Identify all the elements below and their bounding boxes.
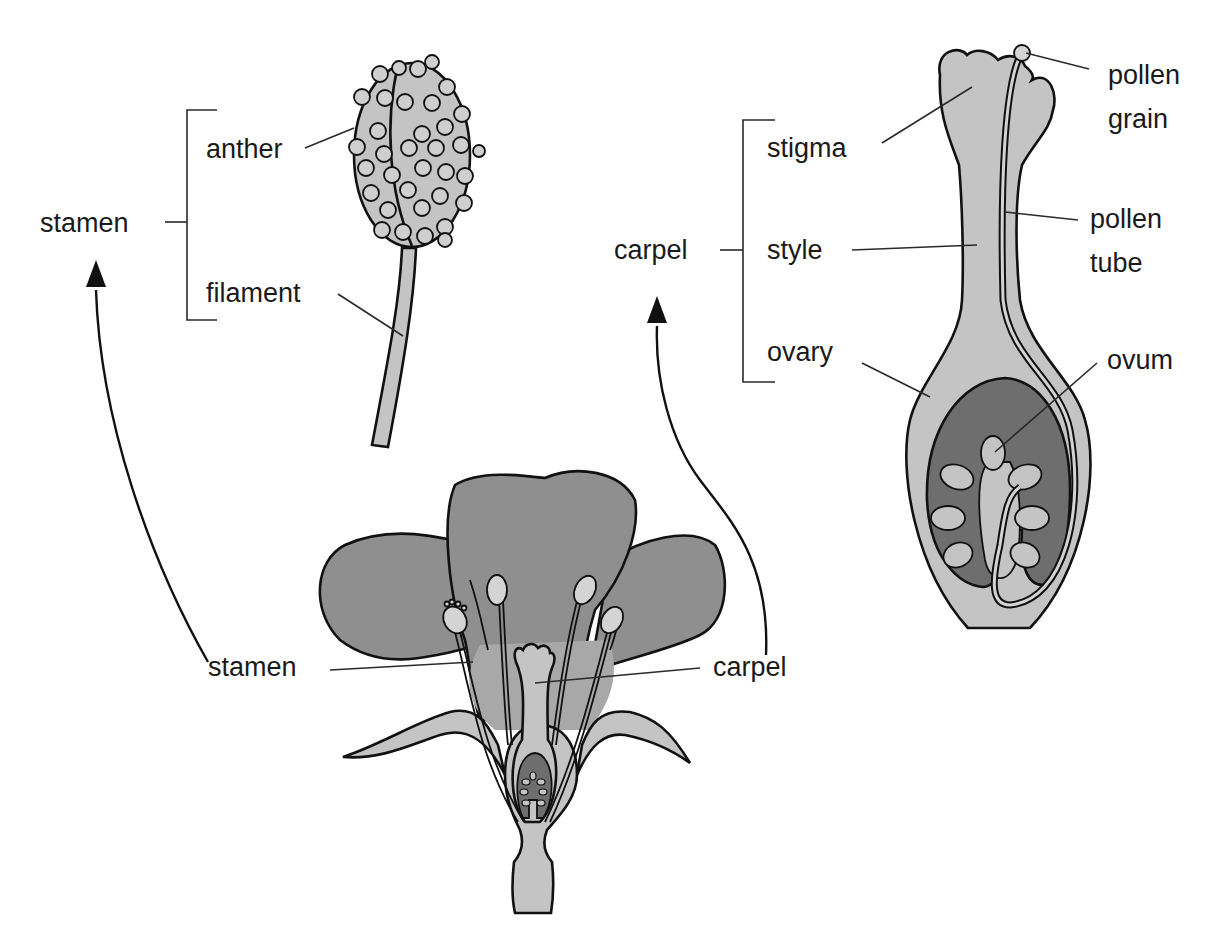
style-label: style <box>767 235 823 265</box>
pollen-tube-label-line1: pollen <box>1090 204 1162 234</box>
filament-label: filament <box>206 278 301 308</box>
anther-leader-line <box>305 128 354 148</box>
pollen-grain-label-line2: grain <box>1108 104 1168 134</box>
pollen-grain-label-line1: pollen <box>1108 60 1180 90</box>
stigma-label: stigma <box>767 133 848 163</box>
ovary-label: ovary <box>767 337 834 367</box>
whole-flower: stamen carpel <box>208 471 787 913</box>
filament-leader-line <box>338 294 403 336</box>
filament-shape <box>372 248 416 447</box>
pollen-grain-leader-line <box>1026 53 1089 69</box>
pollen-tube-label-line2: tube <box>1090 248 1143 278</box>
ovum-shape <box>981 436 1005 470</box>
anther-label: anther <box>206 134 283 164</box>
carpel-group-label: carpel <box>614 235 688 265</box>
ovary-leader-line <box>862 363 930 397</box>
flower-stamen-label: stamen <box>208 652 297 682</box>
flower-stamen-leader-line <box>330 662 473 670</box>
stamen-group-label: stamen <box>40 208 129 238</box>
style-leader-line <box>852 245 977 250</box>
ovum-label: ovum <box>1107 345 1173 375</box>
flower-carpel-label: carpel <box>713 652 787 682</box>
anther-shape <box>349 55 485 247</box>
sepal-left <box>343 711 505 775</box>
flower-anatomy-diagram: stamen anther filament <box>0 0 1232 944</box>
